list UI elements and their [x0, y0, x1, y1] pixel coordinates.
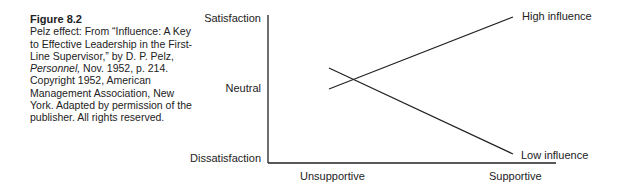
series-label-low: Low influence — [521, 149, 588, 161]
x-label-unsupportive: Unsupportive — [300, 170, 365, 182]
y-label-satisfaction: Satisfaction — [141, 12, 261, 24]
high-influence-line — [329, 17, 513, 89]
low-influence-line — [329, 68, 513, 154]
y-label-dissatisfaction: Dissatisfaction — [141, 152, 261, 164]
y-label-neutral: Neutral — [141, 82, 261, 94]
x-label-supportive: Supportive — [489, 170, 542, 182]
series-label-high: High influence — [522, 10, 592, 22]
